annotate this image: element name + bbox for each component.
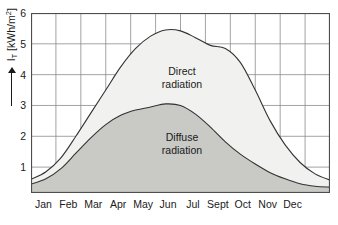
x-tick-label: Sept: [207, 199, 229, 210]
annotation-diffuse-radiation: Diffuse radiation: [162, 131, 202, 157]
x-tick-label: Feb: [59, 199, 77, 210]
x-tick-label: Oct: [235, 199, 251, 210]
y-tick-label: 6: [14, 8, 26, 19]
x-tick-label: Mar: [84, 199, 102, 210]
x-tick-label: Dec: [283, 199, 302, 210]
y-tick-label: 1: [14, 162, 26, 173]
x-tick-label: May: [133, 199, 153, 210]
solar-radiation-chart: IT [kWh/m2] 123456 Direct radiation Diff…: [0, 0, 338, 225]
x-axis-tick-labels: JanFebMarAprMayJunJulSeptOctNovDec: [31, 199, 330, 219]
y-tick-label: 5: [14, 39, 26, 50]
annotation-direct-line1: Direct: [162, 65, 202, 78]
x-tick-label: Jun: [160, 199, 177, 210]
x-tick-label: Nov: [258, 199, 277, 210]
y-tick-label: 3: [14, 100, 26, 111]
annotation-direct-line2: radiation: [162, 78, 202, 91]
x-tick-label: Apr: [110, 199, 126, 210]
x-tick-label: Jul: [186, 199, 199, 210]
annotation-direct-radiation: Direct radiation: [162, 65, 202, 91]
y-tick-label: 2: [14, 131, 26, 142]
y-tick-label: 4: [14, 70, 26, 81]
annotation-diffuse-line2: radiation: [162, 144, 202, 157]
x-tick-label: Jan: [35, 199, 52, 210]
y-axis-tick-labels: 123456: [10, 0, 26, 225]
plot-area: Direct radiation Diffuse radiation: [31, 13, 330, 193]
plot-svg: [31, 13, 330, 193]
annotation-diffuse-line1: Diffuse: [162, 131, 202, 144]
